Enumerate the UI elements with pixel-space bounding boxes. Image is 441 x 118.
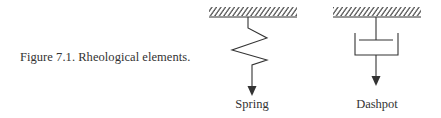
- spring-arrow-icon: [248, 86, 257, 96]
- spring-label: Spring: [235, 97, 268, 112]
- spring-element: [209, 7, 297, 96]
- dashpot-label: Dashpot: [356, 97, 398, 112]
- spring-ceiling-hatch: [209, 7, 297, 16]
- dashpot-arrow-icon: [372, 76, 381, 86]
- dashpot-element: [333, 7, 421, 86]
- spring-coil: [232, 17, 267, 90]
- dashpot-ceiling-hatch: [333, 7, 421, 16]
